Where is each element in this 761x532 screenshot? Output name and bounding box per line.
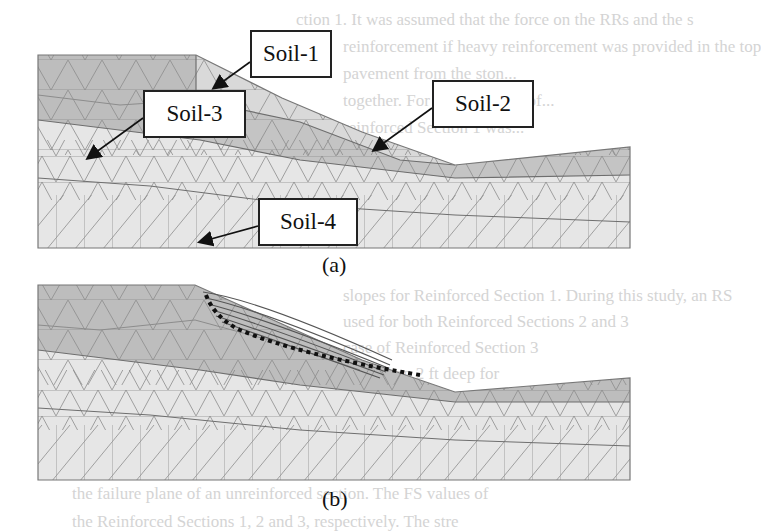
panel-b-mesh <box>38 285 630 480</box>
soil-label-soil-3: Soil-3 <box>143 90 246 138</box>
soil-label-soil-4: Soil-4 <box>258 198 358 246</box>
label-arrow-icon <box>374 108 432 150</box>
soil-label-soil-2: Soil-2 <box>432 80 534 128</box>
soil-label-soil-1: Soil-1 <box>250 30 332 78</box>
caption-a: (a) <box>322 252 346 278</box>
caption-b: (b) <box>322 486 348 512</box>
